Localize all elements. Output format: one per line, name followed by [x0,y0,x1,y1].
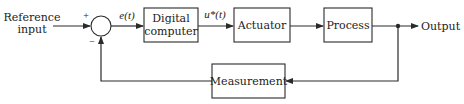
digital-computer-label-line2: computer [144,25,198,38]
digital-computer-label-line1: Digital [152,12,190,25]
error-signal-label: e(t) [119,9,135,22]
summing-junction [91,16,111,36]
actuator-label: Actuator [237,19,287,32]
minus-sign: − [89,36,95,47]
process-label: Process [326,19,370,32]
plus-sign: + [83,10,89,21]
block-diagram: Reference input + − e(t) Digital compute… [0,0,464,104]
reference-input-label-line2: input [17,23,47,36]
control-signal-label: u*(t) [204,8,226,21]
feedback-to-summing-arrow [101,37,212,81]
measurement-label: Measurement [210,75,288,88]
output-label: Output [421,20,461,33]
